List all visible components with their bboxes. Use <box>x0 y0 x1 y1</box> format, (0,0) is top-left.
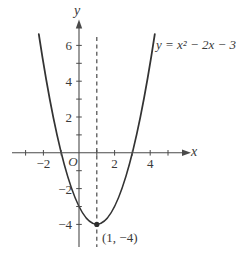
y-axis-arrowhead-icon <box>76 20 82 29</box>
vertex-coordinates-label: (1, −4) <box>102 231 138 244</box>
y-tick-label: −2 <box>58 182 72 195</box>
equation-label: y = x² − 2x − 3 <box>156 38 236 51</box>
x-tick-label: −2 <box>36 157 50 170</box>
y-axis-label: y <box>74 4 80 18</box>
x-tick-label: 4 <box>147 157 154 170</box>
y-tick-label: −4 <box>58 218 72 231</box>
origin-label: O <box>68 155 77 168</box>
quadratic-graph-figure: y x O y = x² − 2x − 3 (1, −4) −224642−2−… <box>0 0 240 256</box>
y-tick-label: 6 <box>66 39 73 52</box>
x-tick-label: 2 <box>111 157 118 170</box>
y-tick-label: 2 <box>66 111 73 124</box>
y-tick-label: 4 <box>66 75 73 88</box>
x-axis-arrowhead-icon <box>182 150 191 156</box>
vertex-point-dot <box>94 222 99 227</box>
x-axis-label: x <box>191 145 197 159</box>
